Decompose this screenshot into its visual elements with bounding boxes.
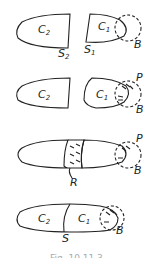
figure-caption: Fig. 10.11.3: [50, 252, 110, 258]
diagram-canvas: C2 C1 S2 S1 B C2 C1 P B P B R C2 C1 S B: [0, 0, 158, 258]
label-p: P: [136, 71, 143, 84]
label-s2: S2: [58, 47, 70, 61]
label-c1: C1: [98, 20, 110, 34]
label-c2: C2: [38, 212, 51, 226]
stage-4: [17, 204, 124, 232]
label-b: B: [134, 164, 142, 177]
label-c1: C1: [78, 212, 90, 226]
label-b: B: [116, 224, 124, 237]
label-r: R: [70, 176, 78, 189]
label-c2: C2: [38, 88, 51, 102]
label-c2: C2: [38, 23, 51, 37]
flow-arrows: [104, 210, 117, 222]
shape-c1: [84, 78, 129, 108]
seam-s: [64, 204, 70, 232]
stage-1: [17, 14, 141, 48]
label-s: S: [62, 232, 69, 245]
stage-3: [18, 140, 141, 178]
flow-arrows: [118, 84, 133, 100]
shape-right-lobe: [81, 140, 126, 168]
label-b: B: [136, 103, 144, 116]
label-s1: S1: [84, 43, 95, 57]
label-b: B: [134, 38, 142, 51]
label-c1: C1: [96, 88, 108, 102]
flow-arrows: [70, 144, 130, 164]
label-p: P: [136, 132, 143, 145]
stage-2: [17, 78, 141, 108]
shape-left-lobe: [18, 140, 68, 168]
